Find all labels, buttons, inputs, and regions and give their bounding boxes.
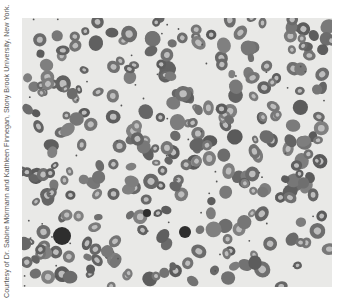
- blood-smear-image: [22, 18, 332, 287]
- photo-credit: Courtesy of Dr. Sabine Mörmann and Kathl…: [2, 8, 11, 298]
